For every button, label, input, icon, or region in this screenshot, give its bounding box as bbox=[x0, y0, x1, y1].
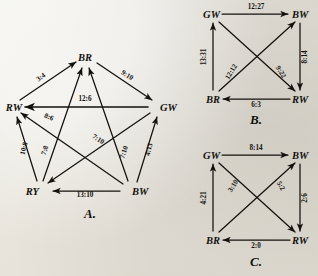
node-label-c-gw: GW bbox=[203, 150, 221, 161]
edge-label-b-bw-rw: 8:14 bbox=[301, 50, 309, 63]
edge-label-a-bw-rw: 8:6 bbox=[43, 112, 55, 123]
caption-c: C. bbox=[250, 254, 262, 269]
edge-a-rw-br bbox=[20, 62, 76, 100]
caption-a: A. bbox=[83, 206, 96, 221]
node-label-c-br: BR bbox=[205, 235, 220, 246]
node-label-a-ry: RY bbox=[25, 186, 41, 197]
node-label-c-rw: RW bbox=[291, 235, 309, 246]
caption-b: B. bbox=[249, 112, 262, 127]
panel-c bbox=[213, 155, 300, 240]
edge-label-c-bw-rw: 2:6 bbox=[301, 193, 309, 203]
node-label-a-br: BR bbox=[77, 52, 92, 63]
edge-label-b-gw-bw: 12:27 bbox=[248, 3, 265, 11]
node-label-b-br: BR bbox=[205, 94, 220, 105]
edge-label-b-br-gw: 13:31 bbox=[200, 48, 208, 65]
node-label-b-bw: BW bbox=[291, 9, 309, 20]
edge-label-a-rw-br: 3:4 bbox=[35, 71, 48, 83]
panel-b bbox=[213, 14, 300, 99]
edge-label-c-br-gw: 4:21 bbox=[200, 191, 208, 204]
figure-svg: BR GW BW RY RW GW BW BR RW GW BW BR RW 3… bbox=[0, 0, 318, 276]
node-label-a-gw: GW bbox=[160, 102, 178, 113]
edge-label-a-ry-br: 7:8 bbox=[40, 144, 51, 156]
figure-root: BR GW BW RY RW GW BW BR RW GW BW BR RW 3… bbox=[0, 0, 318, 276]
edge-label-b-br-bw: 9:22 bbox=[274, 64, 288, 80]
edge-label-a-bw-br: 7:10 bbox=[118, 145, 130, 160]
node-label-a-rw: RW bbox=[5, 102, 23, 113]
node-label-a-bw: BW bbox=[131, 186, 149, 197]
edge-label-c-rw-br: 2:0 bbox=[251, 242, 261, 250]
edge-label-a-bw-ry: 13:10 bbox=[77, 191, 94, 199]
node-label-b-gw: GW bbox=[203, 9, 221, 20]
edge-label-b-rw-br: 6:3 bbox=[251, 101, 261, 109]
edge-label-a-bw-gw: 4:13 bbox=[144, 142, 155, 157]
edge-label-c-br-bw: 5:2 bbox=[275, 180, 287, 193]
edge-label-c-gw-bw: 8:14 bbox=[250, 144, 263, 152]
edge-label-b-gw-rw: 12:12 bbox=[224, 62, 240, 80]
edge-label-a-gw-rw: 12:6 bbox=[79, 95, 92, 103]
node-label-c-bw: BW bbox=[291, 150, 309, 161]
node-label-b-rw: RW bbox=[291, 94, 309, 105]
